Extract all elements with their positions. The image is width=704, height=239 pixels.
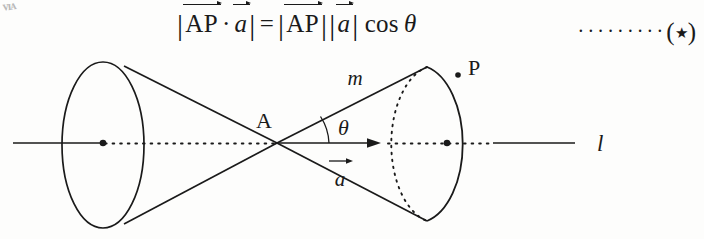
right-cone-lower-slant (277, 143, 427, 221)
figure-page: ᴠɪᴀ |AP·a|=|AP||a|cosθ ·········(★) (0, 0, 704, 239)
label-line-l: l (597, 131, 603, 156)
vector-a-arrowhead-icon (367, 138, 381, 148)
label-angle-theta: θ (338, 115, 349, 140)
vector-a-overarrow-head-icon (346, 158, 353, 164)
label-vector-a: a (335, 167, 346, 191)
right-base-center-dot (444, 140, 451, 147)
label-point-P: P (468, 55, 480, 80)
left-cone-upper-slant (124, 66, 277, 143)
left-cone-lower-slant (124, 143, 277, 224)
point-P-dot (455, 72, 461, 78)
label-slant-m: m (347, 66, 362, 90)
left-base-center-dot (100, 140, 107, 147)
label-apex-A: A (256, 108, 272, 133)
cone-diagram: A θ m a P l (0, 0, 704, 239)
